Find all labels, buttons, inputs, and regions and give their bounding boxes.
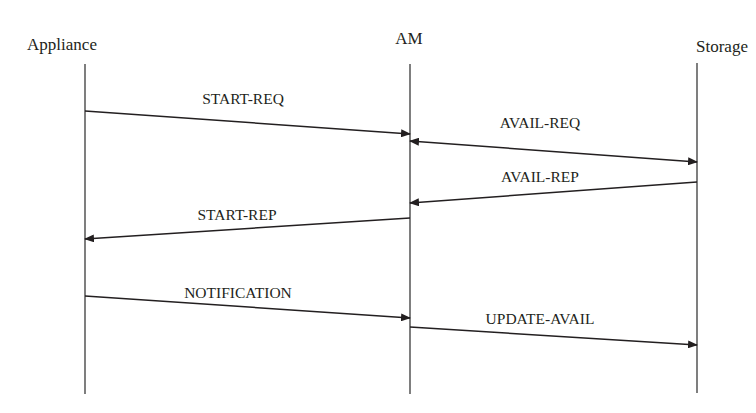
- participant-label-appliance: Appliance: [27, 35, 97, 54]
- message-arrow-start-req: [85, 111, 410, 134]
- message-label-avail-req: AVAIL-REQ: [500, 114, 580, 131]
- message-avail-req: AVAIL-REQ: [410, 114, 697, 162]
- message-start-req: START-REQ: [85, 90, 410, 134]
- participant-label-storage: Storage: [696, 37, 748, 56]
- message-arrow-avail-rep: [410, 182, 697, 203]
- participant-label-am: AM: [395, 29, 422, 48]
- message-notification: NOTIFICATION: [85, 284, 410, 318]
- message-label-avail-rep: AVAIL-REP: [501, 168, 579, 185]
- message-update-avail: UPDATE-AVAIL: [410, 310, 697, 345]
- participant-storage: Storage: [696, 37, 748, 393]
- message-avail-rep: AVAIL-REP: [410, 168, 697, 203]
- message-label-start-rep: START-REP: [197, 206, 276, 223]
- participant-appliance: Appliance: [27, 35, 97, 394]
- message-arrow-update-avail: [410, 327, 697, 345]
- message-arrow-avail-req: [410, 141, 697, 162]
- participant-am: AM: [395, 29, 422, 394]
- participants: ApplianceAMStorage: [27, 29, 748, 394]
- message-start-rep: START-REP: [85, 206, 410, 239]
- messages: START-REQAVAIL-REQAVAIL-REPSTART-REPNOTI…: [85, 90, 697, 345]
- message-label-notification: NOTIFICATION: [184, 284, 292, 301]
- message-label-start-req: START-REQ: [202, 90, 284, 107]
- message-label-update-avail: UPDATE-AVAIL: [486, 310, 595, 327]
- sequence-diagram: ApplianceAMStorage START-REQAVAIL-REQAVA…: [0, 0, 756, 413]
